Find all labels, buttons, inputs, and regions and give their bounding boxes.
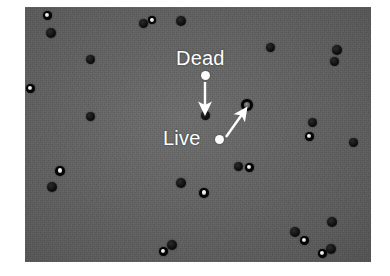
dead-cell-marker [332,45,342,55]
dead-cell-marker [139,19,148,28]
live-cell-marker [305,132,314,141]
live-cell-target [241,99,253,111]
micrograph-panel: DeadLive [25,7,371,262]
live-cell-marker [43,11,52,20]
live-cell-marker [199,188,209,198]
dead-cell-marker [47,182,57,192]
dead-cell-marker [266,43,275,52]
live-cell-marker [26,84,35,93]
live-callout-dot [215,135,224,144]
live-label: Live [163,128,201,148]
dead-cell-marker [326,244,336,254]
dead-cell-marker [86,55,95,64]
live-callout-arrow [226,113,243,137]
live-cell-marker [159,247,168,256]
figure-page: DeadLive [0,0,390,276]
dead-cell-marker [349,138,358,147]
dead-cell-marker [290,227,300,237]
live-cell-marker [245,163,254,172]
dead-cell-marker [201,111,210,120]
dead-cell-marker [86,112,95,121]
live-cell-marker [300,236,309,245]
dead-cell-marker [330,57,339,66]
live-cell-marker [148,16,156,24]
dead-cell-marker [46,28,56,38]
dead-cell-marker [327,217,337,227]
dead-cell-marker [167,240,177,250]
dead-label: Dead [176,48,225,68]
dead-cell-marker [234,162,243,171]
dead-callout-dot [201,71,210,80]
dead-cell-marker [176,178,186,188]
dead-cell-marker [176,16,186,26]
dead-cell-marker [308,118,317,127]
live-cell-marker [55,166,65,176]
